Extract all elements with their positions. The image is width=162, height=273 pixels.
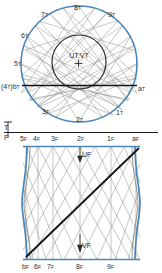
plane-tag-t: T: [4, 124, 9, 131]
rim-label-5t: 5T: [14, 60, 21, 67]
bottom-label-9f: 9F: [107, 263, 114, 270]
rim-label-8t: 8T: [74, 4, 81, 11]
axis-label-5f: 5F: [20, 135, 27, 142]
bottom-label-6f: 6F: [34, 263, 41, 270]
rim-label-7t: 7T: [41, 11, 48, 18]
axis-label-3f: 3F: [51, 135, 58, 142]
bottom-label-bf: bF: [22, 263, 29, 270]
rim-label-6t: 6T: [21, 32, 28, 39]
rim-label-2t: 2T: [76, 116, 83, 123]
bottom-label-7f: 7F: [47, 263, 54, 270]
axis-label-af: aF: [132, 135, 139, 142]
plane-tag-f: F: [4, 134, 8, 141]
uf-label: UF: [82, 151, 91, 158]
bottom-label-8f: 8F: [76, 263, 83, 270]
center-point-label: UT,VT: [69, 52, 89, 59]
axis-label-4f: 4F: [33, 135, 40, 142]
rim-label-4t-bt: (4T)bT: [1, 83, 20, 91]
vf-label: VF: [82, 242, 91, 249]
rim-label-3t: 3T: [42, 108, 49, 115]
rim-label-1t: 1T: [116, 109, 123, 116]
axis-label-1f: 1F: [107, 135, 114, 142]
geometry-figure: UT,VT 1T 2T 3T 5T 6T 7T 8T 9T aT (4T)bT …: [0, 0, 162, 273]
rim-label-at: aT: [138, 85, 145, 92]
rim-label-9t: 9T: [108, 11, 115, 18]
axis-label-2f: 2F: [77, 135, 84, 142]
